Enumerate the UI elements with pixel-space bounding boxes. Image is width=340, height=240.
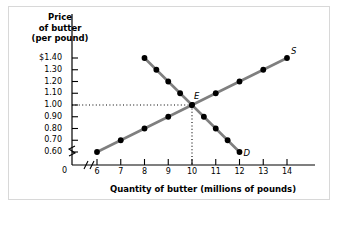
y-tick-label: $1.40 (22, 53, 62, 62)
x-tick-label: 12 (233, 167, 247, 176)
data-point-d (177, 90, 183, 96)
data-point-s (165, 114, 171, 120)
data-point-d (153, 67, 159, 73)
data-point-d (213, 126, 219, 132)
x-tick-label: 9 (161, 167, 175, 176)
x-tick-label: 6 (90, 167, 104, 176)
data-point-d (189, 102, 195, 108)
demand-curve-label: D (244, 148, 251, 158)
data-point-d (165, 79, 171, 85)
y-tick-label: 1.10 (22, 88, 62, 97)
data-point-s (213, 90, 219, 96)
data-point-d (225, 137, 231, 143)
x-tick-label: 7 (114, 167, 128, 176)
data-point-s (118, 137, 124, 143)
data-point-s (142, 126, 148, 132)
x-tick-label: 8 (138, 167, 152, 176)
x-tick-label: 10 (185, 167, 199, 176)
y-tick-label: 0.60 (22, 147, 62, 156)
data-point-d (201, 114, 207, 120)
data-point-d (142, 55, 148, 61)
x-tick-label: 11 (209, 167, 223, 176)
y-tick-label: 1.20 (22, 77, 62, 86)
y-tick-label: 0.70 (22, 135, 62, 144)
data-point-s (94, 149, 100, 155)
y-tick-label: 1.30 (22, 65, 62, 74)
equilibrium-label: E (194, 91, 199, 101)
data-point-d (237, 149, 243, 155)
y-tick-label: 0.80 (22, 124, 62, 133)
x-tick-label: 13 (256, 167, 270, 176)
data-point-s (260, 67, 266, 73)
supply-curve-label: S (291, 46, 296, 56)
data-point-s (284, 55, 290, 61)
y-tick-label: 0.90 (22, 112, 62, 121)
y-axis-break-icon (69, 146, 75, 156)
y-tick-label: 1.00 (22, 100, 62, 109)
x-tick-label: 14 (280, 167, 294, 176)
data-point-s (237, 79, 243, 85)
